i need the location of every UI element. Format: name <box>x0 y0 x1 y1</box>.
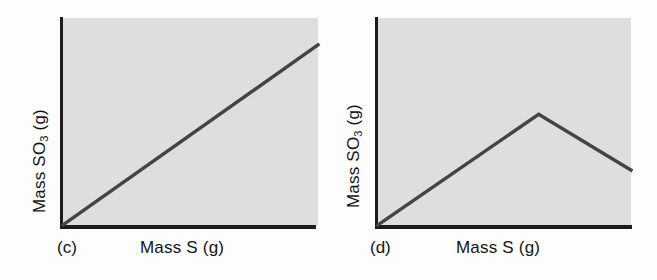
y-axis-label-c-subscript: 3 <box>38 135 50 141</box>
x-axis-d <box>375 225 632 229</box>
y-axis-label-c: Mass SO3 (g) <box>30 109 50 213</box>
x-axis-label-d: Mass S (g) <box>456 238 540 258</box>
chart-panel-c: Mass SO3 (g) (c) Mass S (g) <box>0 0 330 280</box>
panel-tag-c: (c) <box>57 238 77 258</box>
data-line-c <box>63 18 318 225</box>
y-axis-label-d-subscript: 3 <box>352 130 364 136</box>
y-axis-label-d: Mass SO3 (g) <box>344 104 364 208</box>
figure-sheet: Mass SO3 (g) (c) Mass S (g) Mass SO3 (g)… <box>0 0 657 280</box>
x-axis-c <box>60 225 316 229</box>
panel-tag-d: (d) <box>370 238 391 258</box>
y-axis-label-d-unit: (g) <box>344 104 363 130</box>
data-line-d <box>378 18 631 225</box>
x-axis-label-c: Mass S (g) <box>140 238 224 258</box>
chart-panel-d: Mass SO3 (g) (d) Mass S (g) <box>330 0 657 280</box>
y-axis-label-d-main: Mass SO <box>344 137 363 208</box>
y-axis-label-c-unit: (g) <box>30 109 49 135</box>
y-axis-label-c-main: Mass SO <box>30 142 49 213</box>
